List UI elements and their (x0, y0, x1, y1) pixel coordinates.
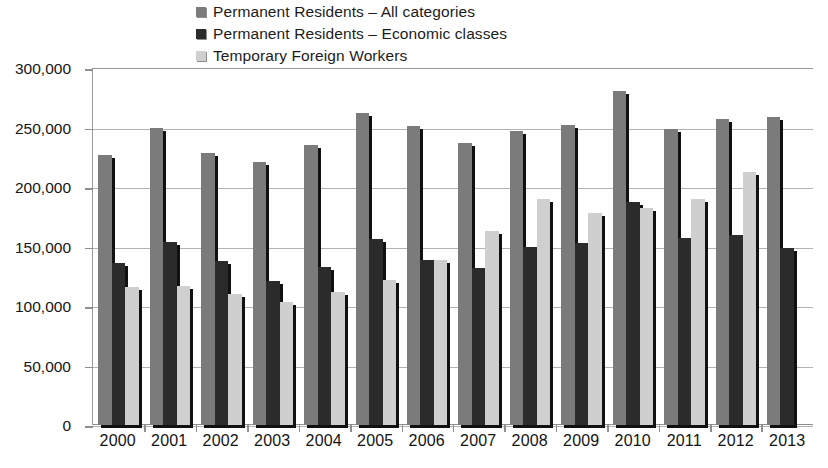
y-axis-tick-label: 300,000 (0, 61, 71, 76)
bar-fill (767, 117, 781, 425)
bar-fill (664, 129, 678, 425)
bar[interactable] (266, 281, 280, 425)
bar[interactable] (150, 128, 164, 426)
bar-fill (678, 238, 692, 425)
bar[interactable] (472, 268, 486, 425)
y-axis-tick-label: 0 (0, 418, 71, 433)
bar[interactable] (767, 117, 781, 425)
bar[interactable] (420, 260, 434, 425)
x-axis-tick-label: 2009 (556, 431, 608, 451)
bar-group-2000[interactable] (93, 69, 144, 425)
bar-group-2013[interactable] (761, 69, 812, 425)
bar-group-2011[interactable] (659, 69, 710, 425)
bar[interactable] (678, 238, 692, 425)
bar-fill (356, 113, 370, 425)
legend-item-economic-classes: Permanent Residents – Economic classes (196, 24, 507, 43)
bar-fill (266, 281, 280, 425)
bar-fill (716, 119, 730, 425)
bar[interactable] (98, 155, 112, 425)
bar-group-2004[interactable] (299, 69, 350, 425)
bar[interactable] (510, 131, 524, 425)
x-axis-tick-label: 2000 (92, 431, 144, 451)
x-axis-tick-label: 2001 (144, 431, 196, 451)
bar[interactable] (716, 119, 730, 425)
y-tick-mark (85, 188, 93, 190)
bar[interactable] (163, 242, 177, 425)
bar[interactable] (125, 287, 139, 425)
bar-group-2010[interactable] (607, 69, 658, 425)
bar-fill (780, 248, 794, 425)
bar-fill (369, 239, 383, 425)
x-axis-tick-label: 2008 (504, 431, 556, 451)
bar[interactable] (729, 235, 743, 425)
bar[interactable] (177, 286, 191, 425)
bar-group-2008[interactable] (504, 69, 555, 425)
legend-item-temporary-foreign-workers: Temporary Foreign Workers (196, 46, 507, 65)
bar[interactable] (201, 153, 215, 426)
x-axis-tick-label: 2006 (401, 431, 453, 451)
bar-fill (561, 125, 575, 425)
bar-chart: Permanent Residents – All categories Per… (0, 0, 828, 468)
bar[interactable] (318, 267, 332, 425)
bar-fill (613, 91, 627, 425)
bar[interactable] (626, 202, 640, 425)
x-axis-tick-label: 2003 (247, 431, 299, 451)
bar[interactable] (280, 302, 294, 425)
bar-groups (93, 69, 813, 425)
bar[interactable] (523, 247, 537, 426)
bar-fill (304, 145, 318, 425)
bar-group-2006[interactable] (402, 69, 453, 425)
bar[interactable] (253, 162, 267, 425)
x-axis-tick-label: 2002 (195, 431, 247, 451)
bar[interactable] (691, 199, 705, 425)
bar-fill (112, 263, 126, 425)
bar[interactable] (780, 248, 794, 425)
bar[interactable] (743, 172, 757, 425)
bar-fill (150, 128, 164, 426)
bar-fill (729, 235, 743, 425)
bar[interactable] (228, 294, 242, 425)
bar-fill (420, 260, 434, 425)
bar[interactable] (458, 143, 472, 425)
bar-group-2001[interactable] (144, 69, 195, 425)
bar[interactable] (407, 126, 421, 425)
bar[interactable] (356, 113, 370, 425)
y-tick-mark (85, 129, 93, 131)
bar-fill (523, 247, 537, 426)
bar-group-2003[interactable] (247, 69, 298, 425)
x-axis-tick-label: 2010 (607, 431, 659, 451)
bar[interactable] (434, 260, 448, 425)
bar[interactable] (640, 208, 654, 425)
bar[interactable] (215, 261, 229, 425)
bar-fill (537, 199, 551, 425)
bar[interactable] (331, 292, 345, 425)
bar-group-2005[interactable] (350, 69, 401, 425)
x-axis-tick-label: 2005 (350, 431, 402, 451)
bar[interactable] (537, 199, 551, 425)
bar-group-2009[interactable] (556, 69, 607, 425)
bar-fill (253, 162, 267, 425)
bar-fill (228, 294, 242, 425)
legend-swatch-icon (196, 7, 206, 17)
bar-group-2007[interactable] (453, 69, 504, 425)
bar[interactable] (383, 280, 397, 425)
bar-fill (318, 267, 332, 425)
bar[interactable] (561, 125, 575, 425)
bar[interactable] (369, 239, 383, 425)
x-axis-labels: 2000200120022003200420052006200720082009… (92, 431, 813, 451)
bar-fill (691, 199, 705, 425)
bar[interactable] (613, 91, 627, 425)
bar[interactable] (485, 231, 499, 425)
bar-fill (201, 153, 215, 426)
bar-fill (280, 302, 294, 425)
y-axis-tick-label: 100,000 (0, 299, 71, 314)
y-tick-mark (85, 426, 93, 428)
bar-group-2002[interactable] (196, 69, 247, 425)
bar-group-2012[interactable] (710, 69, 761, 425)
bar[interactable] (575, 243, 589, 425)
bar[interactable] (304, 145, 318, 425)
bar[interactable] (112, 263, 126, 425)
bar[interactable] (664, 129, 678, 425)
bar-fill (215, 261, 229, 425)
bar[interactable] (588, 213, 602, 425)
